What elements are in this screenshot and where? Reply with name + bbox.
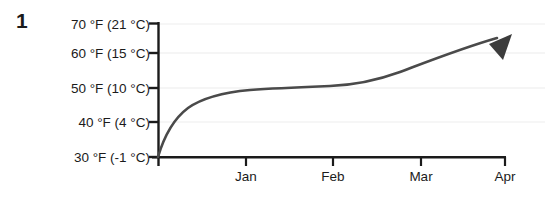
curve-arrowhead-icon [489,34,512,60]
gridlines [158,24,545,122]
figure-container: 1 70 °F (21 °C) 60 °F (15 °C) 50 °F (10 … [0,0,553,203]
chart-plot-area [0,0,553,203]
temperature-curve [158,38,497,157]
